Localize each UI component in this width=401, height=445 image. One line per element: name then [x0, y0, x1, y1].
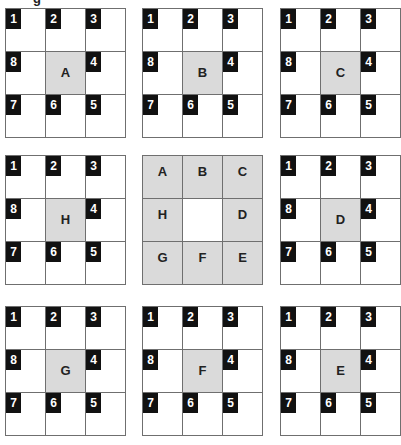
number-badge: 3: [361, 156, 376, 176]
key-letter: E: [223, 250, 262, 265]
numbered-cell: 4: [361, 350, 401, 393]
number-badge: 4: [86, 350, 101, 370]
number-badge: 8: [281, 52, 296, 72]
number-badge: 4: [361, 199, 376, 219]
numbered-cell: 6: [183, 95, 223, 138]
number-badge: 1: [281, 9, 296, 29]
number-badge: 4: [86, 52, 101, 72]
number-badge: 4: [223, 350, 238, 370]
numbered-cell: 7: [143, 95, 183, 138]
number-badge: 6: [46, 393, 61, 413]
number-badge: 7: [6, 393, 21, 413]
number-badge: 1: [143, 307, 158, 327]
numbered-cell: 8: [6, 199, 46, 242]
numbered-cell: 6: [321, 242, 361, 285]
number-badge: 8: [281, 199, 296, 219]
number-badge: 3: [86, 9, 101, 29]
numbered-cell: 7: [6, 95, 46, 138]
numbered-cell: 6: [46, 95, 86, 138]
center-cell: C: [321, 52, 361, 95]
key-letter: H: [143, 207, 182, 222]
key-cell: F: [183, 242, 223, 285]
numbered-cell: 2: [46, 9, 86, 52]
panel-f: 1238F4765: [142, 306, 263, 436]
key-cell: G: [143, 242, 183, 285]
panel-c: 1238C4765: [280, 8, 401, 138]
center-letter: B: [183, 65, 222, 80]
numbered-cell: 8: [281, 199, 321, 242]
number-badge: 5: [361, 95, 376, 115]
number-badge: 7: [6, 95, 21, 115]
number-badge: 7: [281, 393, 296, 413]
cut-off-title: g: [33, 0, 41, 6]
number-badge: 2: [321, 9, 336, 29]
numbered-cell: 8: [6, 350, 46, 393]
numbered-cell: 4: [86, 52, 126, 95]
key-cell: B: [183, 156, 223, 199]
number-badge: 7: [281, 95, 296, 115]
numbered-cell: 1: [281, 307, 321, 350]
number-badge: 4: [223, 52, 238, 72]
center-cell: H: [46, 199, 86, 242]
numbered-cell: 2: [321, 156, 361, 199]
numbered-cell: 5: [86, 95, 126, 138]
numbered-cell: 7: [143, 393, 183, 436]
numbered-cell: 4: [223, 350, 263, 393]
number-badge: 1: [143, 9, 158, 29]
center-letter: A: [46, 65, 85, 80]
numbered-cell: 2: [321, 9, 361, 52]
numbered-cell: 3: [223, 9, 263, 52]
numbered-cell: 1: [6, 156, 46, 199]
number-badge: 3: [361, 9, 376, 29]
key-letter: G: [143, 250, 182, 265]
key-cell: C: [223, 156, 263, 199]
key-letter: F: [183, 250, 222, 265]
key-letter: D: [223, 207, 262, 222]
number-badge: 5: [361, 393, 376, 413]
center-letter: C: [321, 65, 360, 80]
number-badge: 2: [321, 156, 336, 176]
number-badge: 1: [281, 156, 296, 176]
number-badge: 8: [6, 350, 21, 370]
numbered-cell: 5: [361, 95, 401, 138]
numbered-cell: 5: [86, 242, 126, 285]
center-letter: H: [46, 212, 85, 227]
number-badge: 3: [86, 156, 101, 176]
center-cell: B: [183, 52, 223, 95]
number-badge: 5: [223, 95, 238, 115]
number-badge: 5: [86, 242, 101, 262]
numbered-cell: 3: [361, 9, 401, 52]
numbered-cell: 1: [6, 307, 46, 350]
number-badge: 5: [361, 242, 376, 262]
number-badge: 2: [46, 156, 61, 176]
numbered-cell: 3: [223, 307, 263, 350]
numbered-cell: 8: [281, 52, 321, 95]
numbered-cell: 6: [183, 393, 223, 436]
numbered-cell: 7: [281, 95, 321, 138]
number-badge: 6: [46, 242, 61, 262]
number-badge: 6: [46, 95, 61, 115]
key-cell: H: [143, 199, 183, 242]
numbered-cell: 5: [86, 393, 126, 436]
center-cell: E: [321, 350, 361, 393]
number-badge: 2: [183, 307, 198, 327]
center-letter: E: [321, 363, 360, 378]
numbered-cell: 7: [281, 242, 321, 285]
key-cell: D: [223, 199, 263, 242]
key-letter: B: [183, 164, 222, 179]
number-badge: 6: [321, 242, 336, 262]
number-badge: 4: [361, 350, 376, 370]
numbered-cell: 2: [46, 307, 86, 350]
numbered-cell: 8: [143, 350, 183, 393]
center-letter: G: [46, 363, 85, 378]
number-badge: 3: [223, 307, 238, 327]
numbered-cell: 4: [86, 350, 126, 393]
number-badge: 6: [321, 95, 336, 115]
center-cell: G: [46, 350, 86, 393]
numbered-cell: 1: [281, 9, 321, 52]
number-badge: 8: [281, 350, 296, 370]
number-badge: 5: [223, 393, 238, 413]
panel-h: 1238H4765: [5, 155, 126, 285]
numbered-cell: 1: [143, 9, 183, 52]
number-badge: 7: [143, 95, 158, 115]
